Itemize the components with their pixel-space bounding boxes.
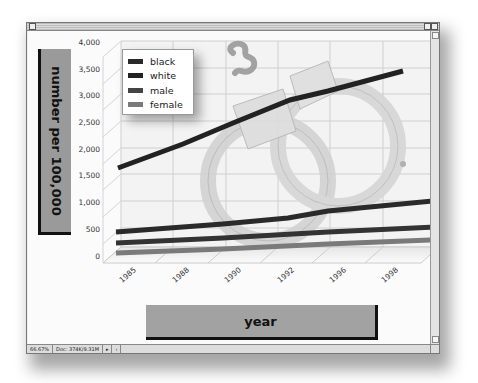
y-axis-title-text: number per 100,000 <box>49 66 64 215</box>
svg-text:3,500: 3,500 <box>79 65 101 74</box>
title-bar[interactable] <box>27 23 439 31</box>
chart-plot: 4,000 3,500 3,000 2,500 2,000 1,500 1,00… <box>28 31 430 344</box>
svg-text:1992: 1992 <box>276 265 297 284</box>
zoom-level[interactable]: 66.67% <box>27 345 53 353</box>
svg-text:500: 500 <box>86 225 101 234</box>
legend-item-female: female <box>128 98 188 113</box>
legend-swatch <box>128 73 143 78</box>
status-bar: 66.67% Doc: 374K/9.31M ▸ ‹ <box>27 344 430 353</box>
svg-text:1998: 1998 <box>380 265 401 284</box>
svg-text:1996: 1996 <box>328 265 349 284</box>
legend-item-white: white <box>128 69 188 84</box>
svg-text:1,000: 1,000 <box>79 198 101 207</box>
resize-handle[interactable] <box>430 344 439 353</box>
svg-text:3,000: 3,000 <box>79 91 101 100</box>
vertical-scrollbar[interactable] <box>430 31 439 344</box>
chart-canvas: 4,000 3,500 3,000 2,500 2,000 1,500 1,00… <box>28 31 430 344</box>
legend-swatch <box>128 102 143 107</box>
x-tick-labels: 1985 1988 1990 1992 1996 1998 <box>118 265 401 284</box>
svg-text:1990: 1990 <box>223 265 244 284</box>
y-axis-title: number per 100,000 <box>38 49 71 235</box>
svg-text:4,000: 4,000 <box>79 38 101 47</box>
document-window: 4,000 3,500 3,000 2,500 2,000 1,500 1,00… <box>26 22 440 354</box>
legend-item-black: black <box>128 54 188 69</box>
svg-text:2,500: 2,500 <box>79 118 101 127</box>
doc-size[interactable]: Doc: 374K/9.31M <box>53 345 103 353</box>
svg-text:2,000: 2,000 <box>79 145 101 154</box>
scroll-up-arrow-icon[interactable] <box>432 32 439 39</box>
collapse-box-icon[interactable] <box>431 23 438 30</box>
status-menu-arrow-icon[interactable]: ▸ <box>103 345 113 353</box>
legend-swatch <box>128 59 143 64</box>
svg-text:1,500: 1,500 <box>79 171 101 180</box>
x-axis-title-text: year <box>244 314 276 329</box>
zoom-box-icon[interactable] <box>424 23 431 30</box>
legend: black white male female <box>122 49 194 115</box>
scroll-down-arrow-icon[interactable] <box>432 336 439 343</box>
legend-item-male: male <box>128 83 188 98</box>
svg-text:1985: 1985 <box>118 265 139 284</box>
svg-text:1988: 1988 <box>171 265 192 284</box>
legend-swatch <box>128 88 143 93</box>
svg-text:0: 0 <box>95 252 100 261</box>
close-box-icon[interactable] <box>29 23 36 30</box>
y-tick-labels: 4,000 3,500 3,000 2,500 2,000 1,500 1,00… <box>79 38 101 261</box>
scroll-left-arrow-icon[interactable]: ‹ <box>112 345 121 353</box>
x-axis-title: year <box>146 305 378 340</box>
